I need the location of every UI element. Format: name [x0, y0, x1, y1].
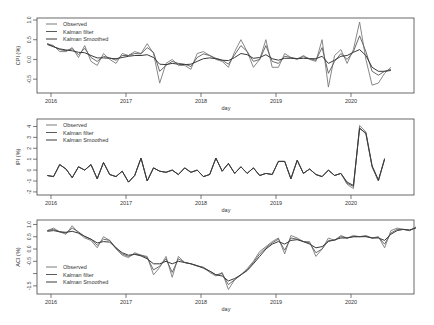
x-axis-label: day — [222, 306, 231, 312]
panel-cpi: 1.00.50.0-0.5CPI (%)20162017201820192020… — [15, 16, 414, 111]
y-tick-label: -0.5 — [26, 75, 32, 84]
y-tick-label: 1 — [26, 158, 32, 161]
legend-label: Kalman filter — [63, 29, 94, 35]
x-tick-label: 2016 — [45, 200, 57, 206]
legend-label: Observed — [63, 264, 87, 270]
x-tick-label: 2019 — [270, 98, 282, 104]
legend-label: Kalman Smoothed — [63, 36, 108, 42]
x-axis-label: day — [222, 105, 231, 111]
y-tick-label: -0.5 — [26, 257, 32, 266]
y-tick-label: -2 — [26, 189, 32, 194]
x-tick-label: 2018 — [195, 98, 207, 104]
y-tick-label: 0 — [26, 168, 32, 171]
x-tick-label: 2017 — [120, 200, 132, 206]
legend-label: Kalman filter — [63, 130, 94, 136]
x-tick-label: 2019 — [270, 299, 282, 305]
x-tick-label: 2020 — [345, 98, 357, 104]
y-tick-label: 0.5 — [26, 233, 32, 240]
y-axis-label: IPI (%) — [15, 148, 21, 165]
y-tick-label: -1 — [26, 179, 32, 184]
y-tick-label: 0.5 — [26, 36, 32, 43]
y-tick-label: 4 — [26, 125, 32, 128]
x-tick-label: 2020 — [345, 200, 357, 206]
x-tick-label: 2017 — [120, 299, 132, 305]
legend-label: Observed — [63, 122, 87, 128]
legend-label: Kalman filter — [63, 272, 94, 278]
y-tick-label: 1.0 — [26, 16, 32, 23]
y-axis-label: CPI (%) — [15, 46, 21, 65]
legend-label: Kalman Smoothed — [63, 137, 108, 143]
x-tick-label: 2017 — [120, 98, 132, 104]
y-tick-label: 0.0 — [26, 56, 32, 63]
y-tick-label: 2 — [26, 147, 32, 150]
series-line-observed — [47, 125, 384, 188]
x-tick-label: 2018 — [195, 200, 207, 206]
x-tick-label: 2019 — [270, 200, 282, 206]
legend-label: Kalman Smoothed — [63, 279, 108, 285]
x-axis-label: day — [222, 207, 231, 213]
y-tick-label: -1.5 — [26, 281, 32, 290]
x-tick-label: 2018 — [195, 299, 207, 305]
panel-ipi: 43210-1-2IPI (%)20162017201820192020dayO… — [15, 119, 414, 213]
x-tick-label: 2020 — [345, 299, 357, 305]
y-tick-label: 0.0 — [26, 245, 32, 252]
panel-aci: 1.00.50.0-0.5-1.5ACI (%)2016201720182019… — [15, 220, 416, 312]
series-line-observed — [47, 22, 391, 87]
x-tick-label: 2016 — [45, 98, 57, 104]
y-tick-label: 3 — [26, 136, 32, 139]
series-line-kalman-smoothed — [47, 228, 416, 281]
series-line-kalman-filter — [47, 227, 416, 284]
series-line-kalman-smoothed — [47, 45, 391, 72]
chart-svg: 1.00.50.0-0.5CPI (%)20162017201820192020… — [0, 0, 434, 325]
x-tick-label: 2016 — [45, 299, 57, 305]
legend-label: Observed — [63, 21, 87, 27]
y-axis-label: ACI (%) — [15, 247, 21, 266]
y-tick-label: 1.0 — [26, 221, 32, 228]
kalman-chart-figure: 1.00.50.0-0.5CPI (%)20162017201820192020… — [0, 0, 434, 325]
